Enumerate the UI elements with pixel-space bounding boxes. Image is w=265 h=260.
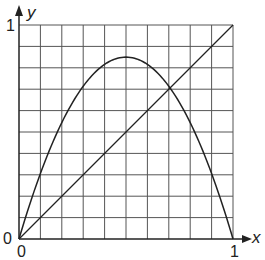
y-tick-0: 0 [3, 231, 12, 247]
x-axis-label: x [252, 229, 261, 246]
x-tick-1: 1 [230, 244, 239, 260]
x-tick-0: 0 [17, 244, 26, 260]
chart-canvas [0, 0, 265, 260]
y-tick-1: 1 [6, 18, 15, 34]
y-axis-label: y [27, 4, 36, 21]
